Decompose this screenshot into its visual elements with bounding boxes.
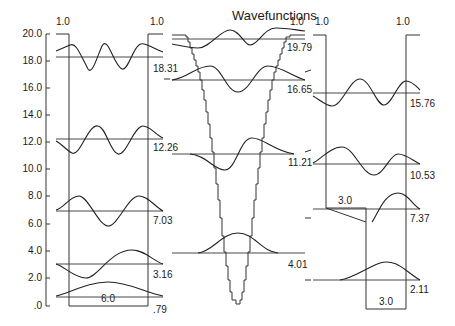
bottom-width-label: 3.0 (379, 296, 393, 307)
y-tick-label: 6.0 (28, 218, 42, 229)
energy-label: .79 (153, 304, 167, 315)
energy-label: 12.26 (153, 142, 178, 153)
y-tick-label: 18.0 (23, 55, 43, 66)
y-tick-label: 12.0 (23, 136, 43, 147)
middle-panel-stepped-well: 1.0 19.79 16.65 11.21 4.01 (172, 16, 313, 304)
step-width-label: 3.0 (338, 195, 352, 206)
wavefunction-4-01 (198, 233, 278, 253)
y-tick-label: 16.0 (23, 82, 43, 93)
well-width-label: 6.0 (101, 293, 115, 304)
wavefunction-19-79 (172, 28, 305, 48)
energy-label: 19.79 (287, 42, 312, 53)
energy-label: 11.21 (288, 157, 313, 168)
y-tick-label: 4.0 (28, 245, 42, 256)
figure-title: Wavefunctions (232, 8, 317, 23)
energy-label: 4.01 (288, 259, 308, 270)
barrier-height-label: 1.0 (150, 16, 164, 27)
wavefunction-15-76 (313, 79, 420, 106)
y-tick-label: .0 (34, 300, 43, 311)
square-well-potential (56, 34, 163, 306)
right-panel-step-well: 1.0 1.0 3.0 3.0 15.76 10.53 7.37 2.11 (313, 16, 435, 309)
wavefunction-2-11 (340, 262, 420, 280)
wavefunction-n4 (56, 126, 163, 154)
wavefunctions-figure: Wavefunctions 20.0 18.0 16.0 14.0 12.0 1… (0, 0, 455, 326)
y-tick-label: 14.0 (23, 109, 43, 120)
energy-label: 15.76 (410, 98, 435, 109)
y-tick-label: 2.0 (28, 272, 42, 283)
y-tick-label: 20.0 (23, 28, 43, 39)
barrier-height-label: 1.0 (315, 16, 329, 27)
left-panel-square-well: 20.0 18.0 16.0 14.0 12.0 10.0 8.0 6.0 4.… (23, 16, 179, 315)
energy-label: 18.31 (153, 63, 178, 74)
energy-label: 7.03 (153, 215, 173, 226)
stepped-harmonic-potential (172, 35, 305, 304)
step-slope (326, 208, 366, 222)
energy-label: 3.16 (153, 269, 173, 280)
y-tick-label: 10.0 (23, 163, 43, 174)
y-axis-ticks (46, 34, 50, 306)
barrier-height-label: 1.0 (396, 16, 410, 27)
energy-label: 16.65 (287, 84, 312, 95)
wavefunction-16-65 (172, 66, 305, 92)
panel-separator-marks (164, 70, 311, 280)
y-tick-label: 8.0 (28, 190, 42, 201)
barrier-height-label: 1.0 (290, 16, 304, 27)
barrier-height-label: 1.0 (56, 16, 70, 27)
energy-label: 10.53 (410, 170, 435, 181)
wavefunction-10-53 (313, 147, 420, 175)
energy-label: 2.11 (410, 284, 429, 295)
energy-label: 7.37 (410, 213, 430, 224)
